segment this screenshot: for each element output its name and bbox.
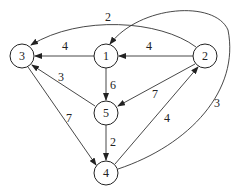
weight-4-2: 4 xyxy=(164,111,170,125)
graph-diagram: 4 4 2 6 3 7 7 2 4 3 3 1 2 5 4 xyxy=(0,0,237,194)
edge-2-3 xyxy=(31,25,196,47)
node-3: 3 xyxy=(10,44,34,68)
weight-2-1: 4 xyxy=(146,39,152,53)
edge-4-2 xyxy=(115,67,198,164)
svg-text:1: 1 xyxy=(103,49,109,63)
weight-1-3: 4 xyxy=(62,39,68,53)
weight-5-3: 3 xyxy=(58,70,64,84)
svg-text:2: 2 xyxy=(202,49,208,63)
svg-text:5: 5 xyxy=(103,106,109,120)
node-5: 5 xyxy=(94,101,118,125)
edge-4-1 xyxy=(110,11,230,169)
weight-5-4: 2 xyxy=(110,135,116,149)
weight-4-1: 3 xyxy=(214,96,220,110)
node-4: 4 xyxy=(94,161,118,185)
node-1: 1 xyxy=(94,44,118,68)
weight-2-3: 2 xyxy=(105,10,111,24)
weight-3-4: 7 xyxy=(66,111,72,125)
node-2: 2 xyxy=(193,44,217,68)
weight-1-5: 6 xyxy=(110,78,116,92)
svg-text:4: 4 xyxy=(103,166,109,180)
svg-text:3: 3 xyxy=(19,49,25,63)
weight-2-5: 7 xyxy=(152,87,158,101)
